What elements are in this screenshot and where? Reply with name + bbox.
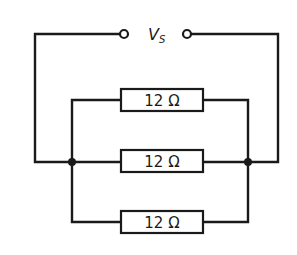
- resistor-top: 12 Ω: [121, 89, 203, 111]
- resistor-top-label: 12 Ω: [144, 92, 179, 110]
- resistor-bottom: 12 Ω: [121, 211, 203, 233]
- junction-left-icon: [68, 158, 76, 166]
- terminal-right-icon: [183, 30, 191, 38]
- wire-left-supply: [35, 34, 120, 162]
- resistor-middle: 12 Ω: [121, 150, 203, 172]
- junction-right-icon: [244, 158, 252, 166]
- source-label: VS: [148, 25, 166, 45]
- circuit-diagram: VS 12 Ω 12 Ω 12 Ω: [0, 0, 297, 255]
- resistor-bottom-label: 12 Ω: [144, 214, 179, 232]
- terminal-left-icon: [120, 30, 128, 38]
- resistor-middle-label: 12 Ω: [144, 153, 179, 171]
- source-subscript: S: [159, 34, 166, 45]
